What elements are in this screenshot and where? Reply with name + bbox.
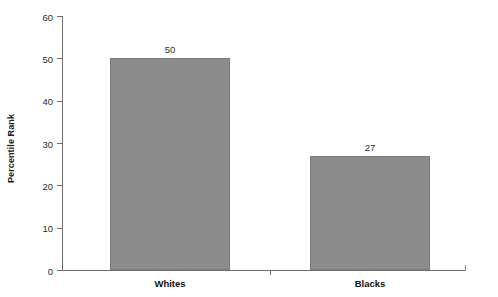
y-tick-10: 10	[57, 228, 62, 229]
y-axis-title: Percentile Rank	[0, 0, 22, 297]
y-tick-label-20: 20	[42, 180, 53, 191]
y-tick-20: 20	[57, 185, 62, 186]
y-tick-label-30: 30	[42, 138, 53, 149]
x-axis-separator-tick	[270, 270, 271, 275]
y-tick-50: 50	[57, 58, 62, 59]
y-tick-label-50: 50	[42, 53, 53, 64]
x-axis-end-cap	[465, 265, 466, 271]
y-tick-0: 0	[57, 270, 62, 271]
bar-value-whites: 50	[165, 44, 176, 55]
bar-blacks[interactable]: 27	[310, 156, 430, 270]
x-axis-line	[62, 270, 466, 271]
plot-area: 60 50 40 30 20 10 0 50 27 Whi	[62, 16, 466, 270]
y-tick-60: 60	[57, 16, 62, 17]
bar-value-blacks: 27	[365, 142, 376, 153]
x-axis-label-blacks: Blacks	[355, 278, 386, 289]
y-axis-line	[62, 16, 63, 270]
x-axis-label-whites: Whites	[154, 278, 185, 289]
y-tick-label-60: 60	[42, 11, 53, 22]
y-tick-30: 30	[57, 143, 62, 144]
y-tick-label-40: 40	[42, 96, 53, 107]
bar-whites[interactable]: 50	[110, 58, 230, 270]
y-tick-label-0: 0	[48, 265, 53, 276]
y-tick-40: 40	[57, 101, 62, 102]
bar-chart: Percentile Rank 60 50 40 30 20 10 0	[0, 0, 498, 297]
y-tick-label-10: 10	[42, 223, 53, 234]
